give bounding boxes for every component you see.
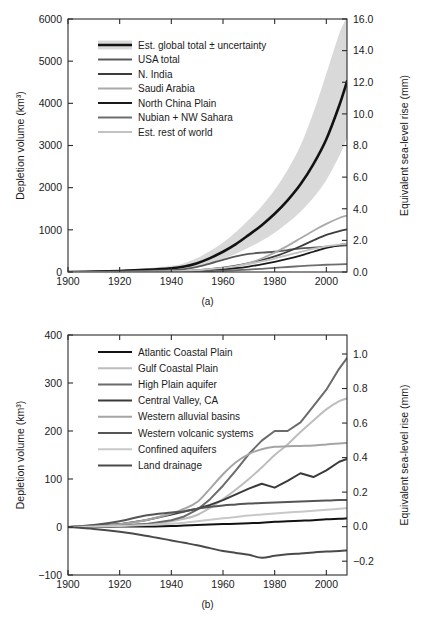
y2-tick-label: 0.8 [353,382,368,394]
x-tick-label: 1960 [211,275,235,287]
y2-axis-title: Equivalent sea-level rise (mm) [398,75,410,216]
legend-label[interactable]: Nubian + NW Sahara [138,112,233,123]
legend-label[interactable]: Atlantic Coastal Plain [138,347,233,358]
x-tick-label: 1940 [160,578,184,590]
y2-tick-label: 0.4 [353,451,368,463]
legend-label[interactable]: Saudi Arabia [138,83,195,94]
x-tick-label: 2000 [315,578,339,590]
legend-label[interactable]: Est. global total ± uncertainty [138,40,266,51]
plot-area-a [68,17,347,272]
legend-label[interactable]: Gulf Coastal Plain [138,363,218,374]
y2-tick-label: 0.2 [353,486,368,498]
legend-label[interactable]: Central Valley, CA [138,395,219,406]
y-tick-label: 2000 [39,181,63,193]
y-axis-title: Depletion volume (km³) [14,401,26,510]
y2-tick-label: 16.0 [353,13,374,25]
y2-tick-label: 10.0 [353,108,374,120]
series-line [68,527,347,558]
y-tick-label: 200 [44,425,62,437]
y-tick-label: 300 [44,377,62,389]
panel-caption-b: (b) [201,599,213,610]
series-line [68,500,347,527]
x-tick-label: 2000 [315,275,339,287]
y-tick-label: 100 [44,473,62,485]
y2-tick-label: 8.0 [353,139,368,151]
x-tick-label: 1960 [211,578,235,590]
x-tick-label: 1980 [263,578,287,590]
y2-tick-label: −0.2 [353,555,374,567]
legend-label[interactable]: Confined aquifers [138,444,216,455]
panel-caption-a: (a) [201,296,213,307]
y2-tick-label: 1.0 [353,348,368,360]
chart-panel-b: 190019201940196019802000−100010020030040… [0,310,433,618]
x-tick-label: 1920 [108,275,132,287]
y2-tick-label: 0.0 [353,520,368,532]
y2-tick-label: 0.0 [353,266,368,278]
y-tick-label: 1000 [39,224,63,236]
y-tick-label: 0 [56,521,62,533]
y2-axis-title: Equivalent sea-level rise (mm) [398,384,410,525]
chart-panel-a: 1900192019401960198020000100020003000400… [0,0,433,310]
y2-tick-label: 14.0 [353,44,374,56]
y-tick-label: 3000 [39,139,63,151]
y-tick-label: 4000 [39,97,63,109]
legend-a: Est. global total ± uncertaintyUSA total… [98,40,266,138]
legend-label[interactable]: N. India [138,69,173,80]
y-tick-label: 0 [56,266,62,278]
y-tick-label: −100 [38,569,62,581]
x-tick-label: 1980 [263,275,287,287]
figure-groundwater-depletion: 1900192019401960198020000100020003000400… [0,0,433,618]
uncertainty-band [68,17,347,272]
legend-label[interactable]: Western volcanic systems [138,428,253,439]
y-axis-title: Depletion volume (km³) [14,91,26,200]
y2-tick-label: 6.0 [353,171,368,183]
y2-tick-label: 0.6 [353,417,368,429]
legend-label[interactable]: Land drainage [138,460,202,471]
y-tick-label: 6000 [39,13,63,25]
legend-label[interactable]: Est. rest of world [138,127,212,138]
legend-label[interactable]: Western alluvial basins [138,411,240,422]
y-tick-label: 400 [44,329,62,341]
x-tick-label: 1920 [108,578,132,590]
series-line [68,443,347,527]
legend-label[interactable]: High Plain aquifer [138,379,218,390]
panel-a: 1900192019401960198020000100020003000400… [0,0,433,310]
y2-tick-label: 4.0 [353,203,368,215]
x-tick-label: 1940 [160,275,184,287]
panel-b: 190019201940196019802000−100010020030040… [0,310,433,618]
y2-tick-label: 12.0 [353,76,374,88]
y-tick-label: 5000 [39,55,63,67]
legend-label[interactable]: USA total [138,54,180,65]
y2-tick-label: 2.0 [353,234,368,246]
legend-label[interactable]: North China Plain [138,98,216,109]
legend-b: Atlantic Coastal PlainGulf Coastal Plain… [98,347,253,471]
